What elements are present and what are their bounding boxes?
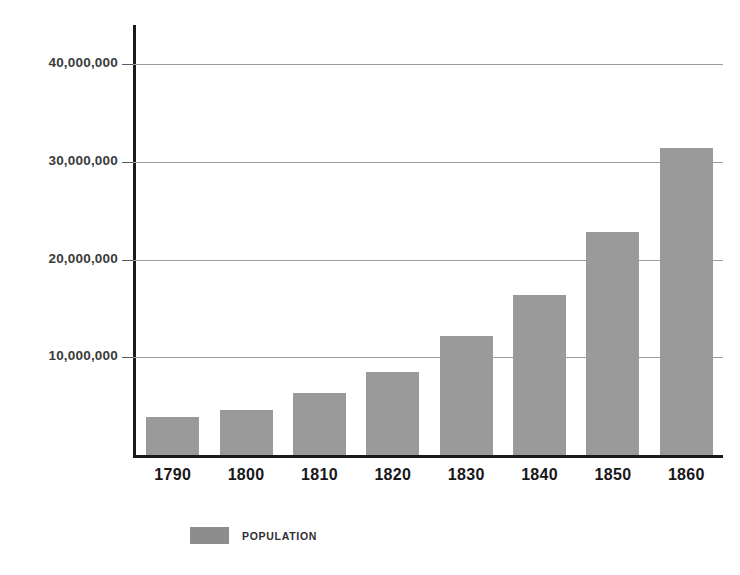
y-tick-mark xyxy=(122,357,133,358)
x-axis-label-1830: 1830 xyxy=(430,466,503,484)
y-tick-mark xyxy=(122,64,133,65)
bar-1790 xyxy=(146,417,199,455)
bar-1830 xyxy=(440,336,493,455)
x-axis-label-1860: 1860 xyxy=(650,466,723,484)
population-bar-chart: 10,000,00020,000,00030,000,00040,000,000… xyxy=(0,0,740,575)
bar-1850 xyxy=(586,232,639,455)
y-tick-mark xyxy=(122,260,133,261)
x-axis-label-1850: 1850 xyxy=(576,466,649,484)
y-axis-label: 30,000,000 xyxy=(48,153,118,168)
x-axis-label-1790: 1790 xyxy=(136,466,209,484)
y-tick-mark xyxy=(122,162,133,163)
chart-legend: POPULATION xyxy=(190,527,317,544)
x-axis-tick-labels: 17901800181018201830184018501860 xyxy=(136,466,723,494)
y-axis-tick-labels: 10,000,00020,000,00030,000,00040,000,000 xyxy=(0,25,118,458)
legend-swatch-population xyxy=(190,527,229,544)
x-axis-line xyxy=(133,455,723,458)
bars-layer xyxy=(136,25,723,455)
y-axis-label: 20,000,000 xyxy=(48,251,118,266)
y-axis-label: 40,000,000 xyxy=(48,55,118,70)
x-axis-label-1810: 1810 xyxy=(283,466,356,484)
bar-1860 xyxy=(660,148,713,455)
bar-1820 xyxy=(366,372,419,455)
x-axis-label-1840: 1840 xyxy=(503,466,576,484)
bar-1810 xyxy=(293,393,346,455)
legend-label-population: POPULATION xyxy=(242,530,317,542)
x-axis-label-1820: 1820 xyxy=(356,466,429,484)
y-axis-label: 10,000,000 xyxy=(48,348,118,363)
bar-1800 xyxy=(220,410,273,455)
bar-1840 xyxy=(513,295,566,455)
x-axis-label-1800: 1800 xyxy=(209,466,282,484)
